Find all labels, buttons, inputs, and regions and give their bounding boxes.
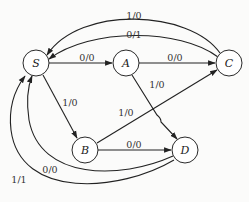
- node-label-a: A: [121, 57, 130, 70]
- edge-label-s-b: 1/0: [62, 97, 77, 108]
- edge-d-to-s-0-0: [28, 76, 173, 171]
- edge-label-a-d: 1/0: [149, 79, 164, 90]
- edge-label-d-s-1: 0/0: [42, 164, 57, 175]
- node-label-c: C: [225, 57, 234, 70]
- edge-label-b-c: 1/0: [118, 107, 133, 118]
- node-b: B: [72, 137, 98, 163]
- arrow-path: [28, 76, 173, 171]
- arrow-path: [10, 76, 174, 184]
- node-label-s: S: [32, 57, 40, 70]
- edge-label-b-d: 0/0: [126, 139, 141, 150]
- node-s: S: [23, 50, 49, 76]
- node-label-b: B: [80, 144, 89, 157]
- state-diagram: 1/0 0/1 0/0 0/0 1/0 1/0 1/0 0/0 0/0 1/1 …: [0, 0, 249, 202]
- node-c: C: [216, 50, 242, 76]
- edge-label-c-s-2: 0/1: [126, 29, 141, 40]
- edge-label-s-a: 0/0: [79, 52, 94, 63]
- edge-label-c-s-1: 1/0: [126, 10, 141, 21]
- node-d: D: [172, 137, 198, 163]
- node-label-d: D: [180, 144, 190, 157]
- node-a: A: [113, 50, 139, 76]
- edge-label-d-s-2: 1/1: [11, 174, 26, 185]
- edge-label-a-c: 0/0: [167, 52, 182, 63]
- edge-d-to-s-1-1: [10, 76, 174, 184]
